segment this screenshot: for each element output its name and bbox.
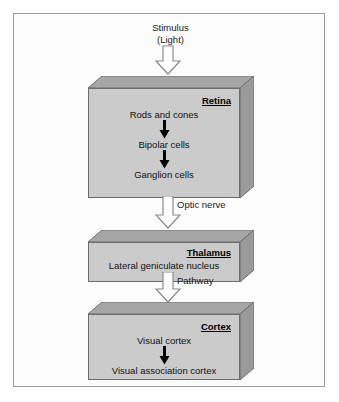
box-retina-line-3: Ganglion cells xyxy=(97,169,231,180)
arrow-visual-to-association xyxy=(159,346,170,365)
stimulus-label-line1: Stimulus xyxy=(1,22,339,34)
arrow-bipolar-to-ganglion xyxy=(159,150,170,169)
box-cortex-line-1: Visual cortex xyxy=(97,335,231,346)
box-cortex: Cortex Visual cortex Visual association … xyxy=(88,302,254,380)
label-pathway: Pathway xyxy=(177,275,213,286)
box-thalamus-title: Thalamus xyxy=(97,247,231,258)
box-retina-title: Retina xyxy=(97,95,231,106)
box-retina-line-1: Rods and cones xyxy=(97,109,231,120)
box-cortex-line-2: Visual association cortex xyxy=(97,365,231,376)
box-thalamus-line-1: Lateral geniculate nucleus xyxy=(97,260,231,271)
label-optic-nerve: Optic nerve xyxy=(177,199,226,210)
box-retina-content: Retina Rods and cones Bipolar cells Gang… xyxy=(88,88,240,180)
box-retina: Retina Rods and cones Bipolar cells Gang… xyxy=(88,76,254,198)
box-cortex-title: Cortex xyxy=(97,321,231,332)
stimulus-label-line2: (Light) xyxy=(1,34,339,46)
arrow-rods-to-bipolar xyxy=(159,120,170,139)
stimulus-caption: Stimulus (Light) xyxy=(1,22,339,45)
figure-canvas: Stimulus (Light) Retina Rods and cones B… xyxy=(0,0,339,402)
arrow-stimulus-to-retina xyxy=(153,45,183,80)
box-retina-line-2: Bipolar cells xyxy=(97,139,231,150)
box-cortex-content: Cortex Visual cortex Visual association … xyxy=(88,314,240,376)
box-thalamus-content: Thalamus Lateral geniculate nucleus xyxy=(88,242,240,271)
